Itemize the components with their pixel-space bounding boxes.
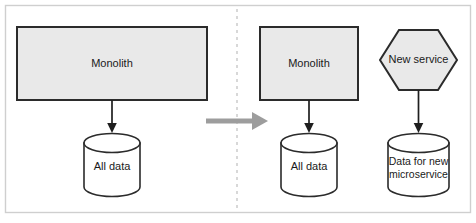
after-database-top: [281, 134, 337, 153]
after-monolith-label: Monolith: [288, 57, 330, 69]
before-database-label: All data: [94, 160, 132, 172]
new-database-top: [388, 134, 449, 153]
after-connector-arrowhead: [304, 123, 314, 133]
before-connector-arrowhead: [107, 123, 117, 133]
before-monolith-to-database-connector: [107, 100, 117, 133]
diagram-figure: Monolith All data Monolith: [0, 0, 476, 223]
after-panel: Monolith All data New service: [260, 27, 457, 197]
after-monolith-to-database-connector: [304, 100, 314, 133]
after-monolith-node: Monolith: [260, 27, 358, 100]
diagram-canvas: Monolith All data Monolith: [0, 0, 476, 223]
new-service-connector-arrowhead: [414, 123, 424, 133]
after-database-node: All data: [281, 134, 337, 197]
new-database-label-line2: microservice: [389, 168, 448, 180]
new-database-label-line1: Data for new: [389, 155, 449, 167]
before-database-node: All data: [84, 134, 140, 197]
new-database-node: Data for new microservice: [388, 134, 449, 197]
before-database-top: [84, 134, 140, 153]
after-database-label: All data: [291, 160, 329, 172]
before-panel: Monolith All data: [17, 27, 207, 196]
new-service-label: New service: [389, 53, 449, 65]
new-service-to-database-connector: [414, 90, 424, 133]
new-service-node: New service: [380, 30, 457, 90]
before-monolith-label: Monolith: [91, 57, 133, 69]
transition-arrow-head: [252, 112, 268, 130]
before-monolith-node: Monolith: [17, 27, 207, 100]
